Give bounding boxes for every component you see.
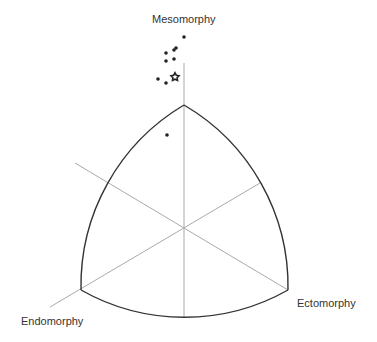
somatochart-figure	[0, 0, 377, 342]
endo-ecto-axis-a	[75, 163, 288, 290]
star-icon	[171, 73, 179, 81]
label-ectomorphy: Ectomorphy	[297, 297, 356, 309]
somatochart: Mesomorphy Endomorphy Ectomorphy	[0, 0, 377, 342]
mean-marker	[171, 73, 179, 81]
label-mesomorphy: Mesomorphy	[152, 13, 216, 25]
data-point	[165, 133, 169, 137]
axes	[50, 63, 288, 318]
data-point	[164, 81, 168, 85]
data-point	[164, 59, 168, 63]
data-point	[172, 48, 176, 52]
data-point	[182, 35, 186, 39]
data-point	[172, 57, 176, 61]
label-endomorphy: Endomorphy	[21, 315, 83, 327]
data-point	[164, 51, 168, 55]
data-point	[156, 77, 160, 81]
